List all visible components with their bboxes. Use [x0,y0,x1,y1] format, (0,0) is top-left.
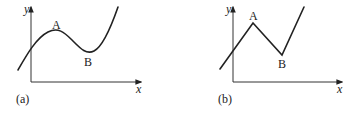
point-label-b-max: A [249,9,258,23]
x-axis-label-a: x [135,82,142,96]
y-axis-label-b: y [225,2,232,16]
panel-a: y x A B (a) [16,2,142,106]
panel-b: y x A B (b) [218,2,343,106]
diagram-canvas: y x A B (a) y x A B (b) [0,0,359,115]
y-axis-label-a: y [23,2,30,16]
point-label-b-min: B [278,57,286,71]
point-label-a-min: B [84,55,92,69]
x-axis-label-b: x [336,82,343,96]
caption-a: (a) [16,92,29,106]
caption-b: (b) [218,92,232,106]
point-label-a-max: A [52,18,61,32]
smooth-curve-a [18,7,118,70]
